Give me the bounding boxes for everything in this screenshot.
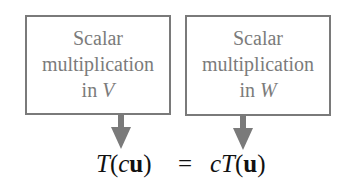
- box-w-line3: in W: [187, 77, 329, 103]
- lhs-scalar-c: c: [118, 150, 129, 177]
- equation-lhs: T(cu): [96, 149, 152, 179]
- box-v-line1: Scalar: [27, 25, 169, 51]
- box-w-line1: Scalar: [187, 25, 329, 51]
- down-arrow-icon-right: [232, 115, 254, 151]
- down-arrow-icon-left: [110, 114, 132, 150]
- scalar-multiplication-in-v-box: Scalar multiplication in V: [25, 15, 171, 115]
- space-w-label: W: [260, 79, 277, 101]
- equation-rhs: cT(u): [210, 149, 266, 179]
- rhs-transform-T: T: [221, 150, 235, 177]
- box-v-line3-prefix: in: [82, 79, 103, 101]
- rhs-close-paren: ): [257, 150, 265, 177]
- lhs-vector-u: u: [129, 150, 143, 177]
- box-w-line3-prefix: in: [239, 79, 260, 101]
- box-v-line3: in V: [27, 77, 169, 103]
- space-v-label: V: [102, 79, 114, 101]
- linearity-equation: T(cu) = cT(u): [0, 149, 351, 179]
- lhs-close-paren: ): [143, 150, 151, 177]
- lhs-transform-T: T: [96, 150, 110, 177]
- equals-sign: =: [178, 149, 192, 179]
- lhs-open-paren: (: [110, 150, 118, 177]
- box-v-line2: multiplication: [27, 51, 169, 77]
- rhs-vector-u: u: [243, 150, 257, 177]
- scalar-multiplication-in-w-box: Scalar multiplication in W: [185, 15, 331, 116]
- rhs-scalar-c: c: [210, 150, 221, 177]
- box-w-line2: multiplication: [187, 51, 329, 77]
